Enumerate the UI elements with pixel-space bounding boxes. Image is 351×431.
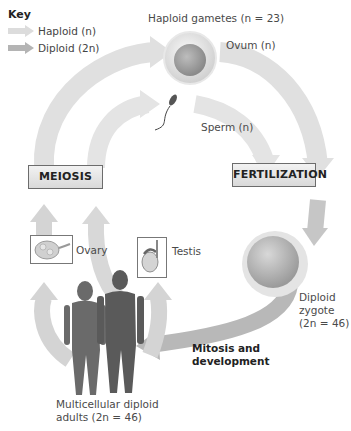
meiosis-box: MEIOSIS (28, 165, 103, 189)
mitosis-line2: development (192, 355, 270, 368)
life-cycle-arrows (0, 0, 351, 431)
mitosis-development-label: Mitosis and development (192, 342, 270, 368)
testis-image (137, 237, 167, 278)
zygote-label: Diploid zygote (2n = 46) (299, 291, 349, 330)
zygote-label-line2: zygote (299, 304, 349, 317)
key-item-diploid: Diploid (2n) (8, 42, 99, 54)
haploid-arrow-icon (8, 25, 34, 37)
zygote-label-line1: Diploid (299, 291, 349, 304)
sperm-label: Sperm (n) (201, 121, 253, 134)
zygote-label-line3: (2n = 46) (299, 317, 349, 330)
adults-label: Multicellular diploid adults (2n = 46) (56, 398, 159, 424)
ovary-icon (31, 236, 72, 263)
ovary-image (30, 235, 73, 264)
fertilization-box: FERTILIZATION (232, 163, 316, 187)
testis-label: Testis (172, 245, 201, 258)
key-label-diploid: Diploid (2n) (38, 42, 99, 54)
key-item-haploid: Haploid (n) (8, 25, 96, 37)
key-title: Key (8, 8, 31, 21)
adults-line1: Multicellular diploid (56, 398, 159, 411)
adults-line2: adults (2n = 46) (56, 411, 159, 424)
mitosis-line1: Mitosis and (192, 342, 270, 355)
testis-icon (138, 238, 166, 277)
diploid-arrow-icon (8, 42, 34, 54)
key-label-haploid: Haploid (n) (38, 25, 96, 37)
ovary-label: Ovary (76, 244, 107, 257)
ovum-label: Ovum (n) (226, 39, 276, 52)
haploid-gametes-label: Haploid gametes (n = 23) (148, 12, 284, 25)
